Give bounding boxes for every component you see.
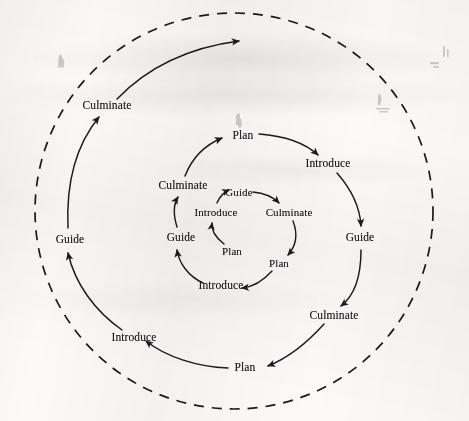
middle-cycle-label-culminate-2: Culminate — [159, 180, 208, 192]
spiral-diagram-page: PlanIntroduceGuideCulminatePlanIntroduce… — [0, 0, 469, 421]
middle-arrow-plan-to-introduce — [259, 134, 318, 155]
middle-cycle-label-introduce-0: Introduce — [199, 280, 244, 292]
outer-cycle-label-introduce-0: Introduce — [112, 332, 157, 344]
inner-arrow-culminate-to-plan — [288, 221, 296, 255]
middle-cycle-label-guide-5: Guide — [346, 232, 375, 244]
outer-arrow-culminate-to-terminal — [117, 41, 239, 99]
outer-arrow-guide-to-culminate — [68, 117, 99, 228]
inner-cycle-label-plan-4: Plan — [269, 258, 289, 269]
middle-arrow-culminate-to-plan-2 — [268, 324, 324, 366]
inner-arrow-plan-to-introduce-2 — [242, 271, 272, 288]
middle-arrow-guide-to-culminate-2 — [341, 250, 361, 306]
middle-cycle-label-guide-1: Guide — [167, 232, 196, 244]
middle-cycle-label-plan-7: Plan — [235, 362, 256, 374]
middle-cycle-label-culminate-6: Culminate — [310, 310, 359, 322]
inner-arrow-plan-to-introduce — [212, 223, 224, 244]
middle-cycle-label-introduce-4: Introduce — [306, 158, 351, 170]
middle-arrow-culminate-to-plan — [185, 138, 222, 176]
inner-cycle-label-introduce-1: Introduce — [194, 207, 237, 218]
outer-cycle-label-culminate-2: Culminate — [83, 100, 132, 112]
middle-arrow-guide-to-culminate — [174, 197, 178, 227]
middle-cycle-label-plan-3: Plan — [233, 130, 254, 142]
inner-cycle-label-guide-2: Guide — [225, 187, 252, 198]
inner-arrow-guide-to-culminate — [253, 192, 279, 203]
middle-arrow-introduce-to-guide-2 — [337, 173, 361, 226]
outer-cycle-label-guide-1: Guide — [56, 234, 85, 246]
outer-arrow-introduce-to-guide — [68, 253, 122, 330]
outer-arrow-plan-to-introduce — [146, 341, 228, 368]
middle-arrow-introduce-to-guide — [177, 250, 203, 283]
inner-cycle-label-culminate-3: Culminate — [266, 207, 313, 218]
inner-cycle-label-plan-0: Plan — [222, 246, 242, 257]
